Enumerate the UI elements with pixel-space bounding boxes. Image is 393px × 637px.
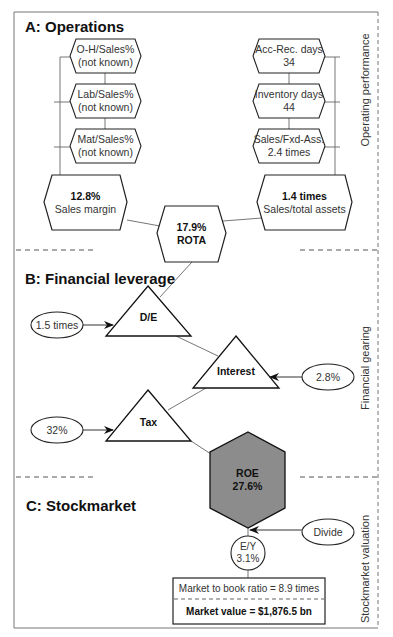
ey-node: E/Y 3.1% [231, 541, 265, 565]
ey-label: E/Y [231, 541, 265, 553]
driver-labour-sales: Lab/Sales% (not known) [70, 88, 141, 114]
rota-value: 17.9% [157, 221, 226, 234]
sales-margin-node: 12.8% Sales margin [44, 190, 127, 216]
driver-inventory-days: Inventory days 44 [253, 88, 325, 114]
driver-acc-rec-days: Acc-Rec. days 34 [253, 43, 325, 69]
rota-label: ROTA [157, 234, 226, 247]
side-label-stockmarket-valuation: Stockmarket valuation [359, 509, 371, 629]
de-label: D/E [106, 311, 191, 324]
de-input-value: 1.5 times [31, 319, 83, 332]
asset-turnover-value: 1.4 times [257, 190, 352, 203]
asset-turnover-label: Sales/total assets [257, 203, 352, 216]
interest-input-value: 2.8% [302, 371, 354, 384]
asset-turnover-node: 1.4 times Sales/total assets [257, 190, 352, 216]
market-value: Market value = $1,876.5 bn [173, 605, 325, 618]
sales-margin-value: 12.8% [44, 190, 127, 203]
interest-label: Interest [193, 365, 279, 378]
divide-label: Divide [302, 526, 354, 539]
section-b-title: B: Financial leverage [25, 270, 175, 287]
roe-node: ROE 27.6% [210, 467, 285, 493]
market-to-book-ratio: Market to book ratio = 8.9 times [173, 582, 325, 595]
section-a-title: A: Operations [25, 18, 124, 35]
sales-margin-label: Sales margin [44, 203, 127, 216]
side-label-operating-performance: Operating performance [359, 30, 371, 150]
interest-triangle [193, 336, 279, 388]
side-label-financial-gearing: Financial gearing [359, 318, 371, 418]
driver-overhead-sales: O-H/Sales% (not known) [70, 43, 141, 69]
tax-input-value: 32% [31, 424, 83, 437]
rota-node: 17.9% ROTA [157, 221, 226, 247]
tax-label: Tax [106, 416, 191, 429]
driver-sales-fixed-assets: Sales/Fxd-Ass. 2.4 times [253, 133, 325, 159]
roe-label: ROE [210, 467, 285, 480]
driver-materials-sales: Mat/Sales% (not known) [70, 133, 141, 159]
section-c-title: C: Stockmarket [26, 497, 136, 514]
roe-value: 27.6% [210, 480, 285, 493]
ey-value: 3.1% [231, 553, 265, 565]
